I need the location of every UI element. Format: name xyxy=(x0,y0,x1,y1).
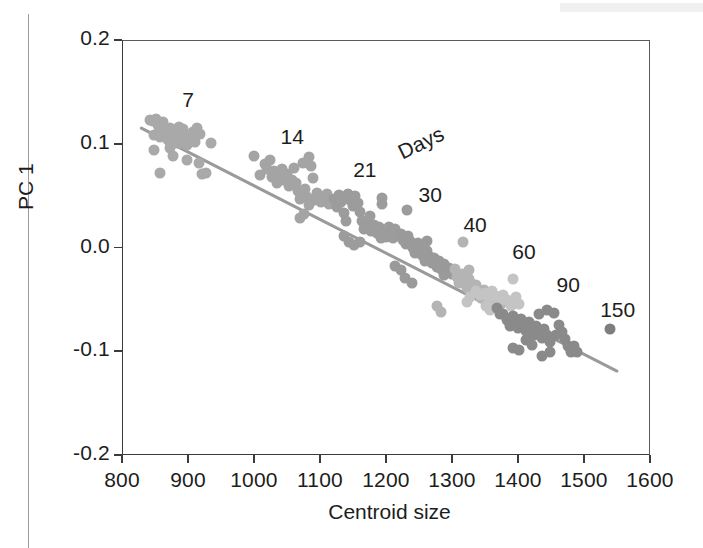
group-label-150: 150 xyxy=(600,298,635,322)
scatter-point xyxy=(605,323,616,334)
scatter-point xyxy=(526,339,537,350)
scatter-point xyxy=(249,151,260,162)
x-axis-title: Centroid size xyxy=(0,500,703,524)
scatter-point xyxy=(508,273,519,284)
scatter-point xyxy=(303,200,314,211)
group-label-14: 14 xyxy=(281,125,304,149)
scatter-point xyxy=(461,297,472,308)
x-axis-tick-label: 1400 xyxy=(494,468,542,492)
x-axis-tick-label: 900 xyxy=(170,468,206,492)
scan-artifact-rule xyxy=(28,14,29,548)
scatter-point xyxy=(402,205,413,216)
scatter-point xyxy=(308,172,319,183)
scatter-point xyxy=(354,236,365,247)
scatter-point xyxy=(148,145,159,156)
x-axis-tick xyxy=(451,455,453,463)
y-axis-tick-label: -0.2 xyxy=(40,441,110,465)
x-axis-tick-label: 1000 xyxy=(230,468,278,492)
x-axis-tick xyxy=(187,455,189,463)
group-label-30: 30 xyxy=(419,183,442,207)
scatter-point xyxy=(340,216,351,227)
x-axis-tick-label: 1500 xyxy=(560,468,608,492)
y-axis-tick xyxy=(114,143,122,145)
scatter-point xyxy=(306,160,317,171)
scatter-point xyxy=(206,137,217,148)
group-label-21: 21 xyxy=(353,158,376,182)
figure-root: 0.20.10.0-0.1-0.280090010001100120013001… xyxy=(0,0,703,548)
x-axis-tick xyxy=(517,455,519,463)
scatter-point xyxy=(436,307,447,318)
scatter-point xyxy=(513,344,524,355)
x-axis-tick-label: 1600 xyxy=(626,468,674,492)
y-axis-title: PC 1 xyxy=(14,163,38,210)
scatter-point xyxy=(494,308,505,319)
x-axis-tick xyxy=(385,455,387,463)
scatter-point xyxy=(194,128,205,139)
x-axis-tick xyxy=(319,455,321,463)
x-axis-tick-label: 1200 xyxy=(362,468,410,492)
x-axis-tick xyxy=(121,455,123,463)
y-axis-tick-label: 0.1 xyxy=(40,130,110,154)
group-label-90: 90 xyxy=(556,273,579,297)
group-label-7: 7 xyxy=(182,88,194,112)
scatter-point xyxy=(181,155,192,166)
group-label-60: 60 xyxy=(512,240,535,264)
scatter-plot-area xyxy=(122,40,650,455)
scatter-point xyxy=(201,168,212,179)
y-axis-tick-label: -0.1 xyxy=(40,337,110,361)
scatter-point xyxy=(193,158,204,169)
y-axis-tick-label: 0.2 xyxy=(40,26,110,50)
scatter-point xyxy=(463,265,474,276)
scatter-point xyxy=(457,237,468,248)
x-axis-tick-label: 800 xyxy=(104,468,140,492)
group-label-40: 40 xyxy=(463,213,486,237)
scatter-point xyxy=(155,167,166,178)
scatter-point xyxy=(421,236,432,247)
scatter-point xyxy=(514,298,525,309)
y-axis-tick xyxy=(114,39,122,41)
scatter-point xyxy=(571,346,582,357)
scatter-point xyxy=(167,151,178,162)
y-axis-tick-label: 0.0 xyxy=(40,234,110,258)
scatter-point xyxy=(534,309,545,320)
y-axis-tick xyxy=(114,247,122,249)
x-axis-tick xyxy=(649,455,651,463)
x-axis-title-text: Centroid size xyxy=(328,500,451,523)
x-axis-tick-label: 1100 xyxy=(297,468,343,492)
scatter-point xyxy=(377,199,388,210)
x-axis-tick-label: 1300 xyxy=(428,468,476,492)
scatter-point xyxy=(407,278,418,289)
scatter-point xyxy=(264,155,275,166)
y-axis-tick xyxy=(114,350,122,352)
scatter-point xyxy=(545,347,556,358)
x-axis-tick xyxy=(253,455,255,463)
x-axis-tick xyxy=(583,455,585,463)
scan-artifact-top xyxy=(560,3,703,12)
